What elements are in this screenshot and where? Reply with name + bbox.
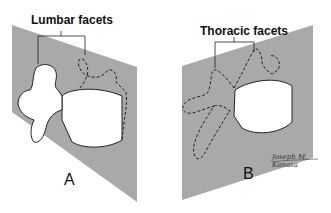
panel-a-vertebral-body: [62, 89, 122, 147]
panel-b-vertebral-body: [234, 80, 292, 133]
panel-a-letter: A: [64, 171, 75, 189]
panel-b-label: Thoracic facets: [200, 24, 288, 38]
panel-b-letter: B: [243, 165, 254, 183]
artist-signature: Joseph M. Kanasa: [272, 153, 331, 169]
panel-a-label: Lumbar facets: [31, 13, 113, 27]
